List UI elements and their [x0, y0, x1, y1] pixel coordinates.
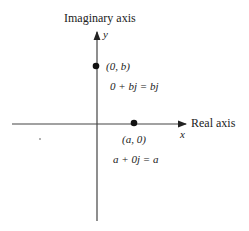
point-a-0: [131, 120, 138, 127]
real-axis-label: Real axis: [191, 116, 235, 131]
y-variable-label: y: [103, 28, 108, 40]
point-0-b: [93, 63, 100, 70]
point-b-equation: 0 + bj = bj: [110, 80, 158, 92]
x-variable-label: x: [180, 128, 185, 140]
point-a-equation: a + 0j = a: [113, 153, 158, 165]
point-a-coordinate: (a, 0): [122, 133, 146, 145]
imaginary-axis-label: Imaginary axis: [64, 11, 136, 26]
stray-mark: [39, 138, 41, 140]
point-b-coordinate: (0, b): [106, 60, 130, 72]
